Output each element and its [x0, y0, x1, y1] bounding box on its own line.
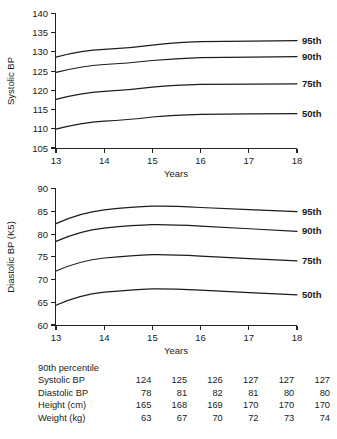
diastolic-ytick-75: 75: [37, 251, 48, 262]
table-cell: 124: [116, 374, 152, 386]
systolic-ytick-105: 105: [32, 143, 48, 154]
diastolic-ytick-65: 65: [37, 297, 48, 308]
table-row-label: Weight (kg): [38, 412, 116, 424]
diastolic-ytick-70: 70: [37, 274, 48, 285]
table-cell: 81: [151, 387, 187, 399]
diastolic-curve-90th: [56, 225, 297, 242]
diastolic-series-label-95th: 95th: [302, 206, 322, 217]
table-row: Weight (kg) 63 67 70 72 73 74: [38, 412, 330, 424]
systolic-ytick-125: 125: [32, 66, 48, 77]
diastolic-y-ticks: [51, 189, 56, 326]
systolic-yaxis-title: Systolic BP: [5, 57, 16, 105]
systolic-xaxis-title: Years: [164, 168, 188, 179]
table-cell: 170: [294, 399, 330, 411]
diastolic-ytick-60: 60: [37, 320, 48, 331]
systolic-ytick-140: 140: [32, 8, 48, 19]
table-cell: 63: [116, 412, 152, 424]
table-cell: 78: [116, 387, 152, 399]
systolic-series-label-50th: 50th: [302, 108, 322, 119]
diastolic-series-label-90th: 90th: [302, 225, 322, 236]
table-cell: 72: [223, 412, 259, 424]
table-cell: 127: [223, 374, 259, 386]
diastolic-xtick-14: 14: [99, 332, 110, 343]
systolic-xtick-15: 15: [147, 155, 158, 166]
diastolic-ytick-90: 90: [37, 183, 48, 194]
table-cell: 67: [151, 412, 187, 424]
table-row: Diastolic BP 78 81 82 81 80 80: [38, 387, 330, 399]
diastolic-series-label-75th: 75th: [302, 255, 322, 266]
systolic-curve-90th: [56, 57, 297, 73]
diastolic-series-label-50th: 50th: [302, 289, 322, 300]
table-cell: 168: [151, 399, 187, 411]
systolic-series-label-90th: 90th: [302, 51, 322, 62]
table-caption: 90th percentile: [38, 362, 337, 374]
percentile-data-table: Systolic BP 124 125 126 127 127 127 Dias…: [38, 374, 330, 424]
systolic-xtick-18: 18: [292, 155, 303, 166]
diastolic-yaxis-title: Diastolic BP (K5): [5, 221, 16, 293]
table-cell: 81: [223, 387, 259, 399]
systolic-xtick-13: 13: [51, 155, 62, 166]
table-cell: 125: [151, 374, 187, 386]
table-cell: 170: [223, 399, 259, 411]
diastolic-chart: 90 85 80 75 70 65 60 13 14 15 16 17 18: [5, 183, 322, 356]
diastolic-ytick-80: 80: [37, 229, 48, 240]
systolic-ytick-135: 135: [32, 27, 48, 38]
diastolic-xaxis-title: Years: [164, 345, 188, 356]
diastolic-xtick-17: 17: [244, 332, 255, 343]
table-cell: 126: [187, 374, 223, 386]
systolic-ytick-120: 120: [32, 85, 48, 96]
table-row: Height (cm) 165 168 169 170 170 170: [38, 399, 330, 411]
diastolic-curve-75th: [56, 255, 297, 271]
diastolic-xtick-15: 15: [147, 332, 158, 343]
systolic-xtick-14: 14: [99, 155, 110, 166]
systolic-y-ticks: [51, 14, 56, 149]
diastolic-x-ticks: [56, 326, 297, 331]
systolic-xtick-17: 17: [244, 155, 255, 166]
table-cell: 80: [259, 387, 295, 399]
systolic-ytick-110: 110: [33, 123, 48, 134]
table-row-label: Systolic BP: [38, 374, 116, 386]
systolic-ytick-115: 115: [33, 104, 48, 115]
table-row-label: Diastolic BP: [38, 387, 116, 399]
diastolic-ytick-85: 85: [37, 206, 48, 217]
systolic-series-label-75th: 75th: [302, 78, 322, 89]
systolic-ytick-130: 130: [32, 46, 48, 57]
table-cell: 170: [259, 399, 295, 411]
diastolic-xtick-13: 13: [51, 332, 62, 343]
table-cell: 169: [187, 399, 223, 411]
diastolic-xtick-16: 16: [195, 332, 206, 343]
table-cell: 165: [116, 399, 152, 411]
systolic-chart: 140 135 130 125 120 115 110 105 13 14 15…: [5, 8, 322, 179]
table-cell: 74: [294, 412, 330, 424]
table-row-label: Height (cm): [38, 399, 116, 411]
percentile-data-table-block: 90th percentile Systolic BP 124 125 126 …: [0, 362, 337, 439]
systolic-curve-50th: [56, 114, 297, 130]
blood-pressure-figure: 140 135 130 125 120 115 110 105 13 14 15…: [0, 0, 337, 439]
systolic-series-label-95th: 95th: [302, 35, 322, 46]
systolic-curve-95th: [56, 41, 297, 58]
diastolic-xtick-18: 18: [292, 332, 303, 343]
table-row: Systolic BP 124 125 126 127 127 127: [38, 374, 330, 386]
diastolic-curve-95th: [56, 206, 297, 223]
systolic-xtick-16: 16: [195, 155, 206, 166]
table-cell: 73: [259, 412, 295, 424]
table-cell: 70: [187, 412, 223, 424]
diastolic-curve-50th: [56, 289, 297, 305]
systolic-curve-75th: [56, 84, 297, 100]
systolic-x-ticks: [56, 149, 297, 154]
table-cell: 80: [294, 387, 330, 399]
table-cell: 127: [294, 374, 330, 386]
table-cell: 127: [259, 374, 295, 386]
table-cell: 82: [187, 387, 223, 399]
